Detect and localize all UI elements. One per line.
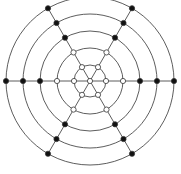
open-node (95, 65, 100, 70)
open-node (79, 65, 84, 70)
filled-node (129, 151, 134, 156)
spoke (90, 8, 132, 81)
filled-node (54, 136, 59, 141)
filled-node (171, 78, 176, 83)
open-node (104, 107, 109, 112)
open-node (54, 78, 59, 83)
filled-node (45, 151, 50, 156)
filled-node (62, 35, 67, 40)
spoke (48, 8, 90, 81)
filled-node (137, 78, 142, 83)
filled-node (3, 78, 8, 83)
node-center (87, 78, 92, 83)
open-node (120, 78, 125, 83)
spoke (90, 81, 132, 154)
spoke (48, 81, 90, 154)
open-node (79, 92, 84, 97)
concentric-graph-diagram (0, 0, 181, 174)
filled-node (62, 122, 67, 127)
filled-node (112, 122, 117, 127)
filled-node (45, 6, 50, 11)
open-node (71, 50, 76, 55)
open-node (104, 50, 109, 55)
open-node (95, 92, 100, 97)
filled-node (129, 6, 134, 11)
open-node (103, 78, 108, 83)
filled-node (54, 20, 59, 25)
filled-node (121, 20, 126, 25)
open-node (71, 107, 76, 112)
filled-node (20, 78, 25, 83)
filled-node (112, 35, 117, 40)
filled-node (154, 78, 159, 83)
filled-node (121, 136, 126, 141)
open-node (71, 78, 76, 83)
filled-node (37, 78, 42, 83)
